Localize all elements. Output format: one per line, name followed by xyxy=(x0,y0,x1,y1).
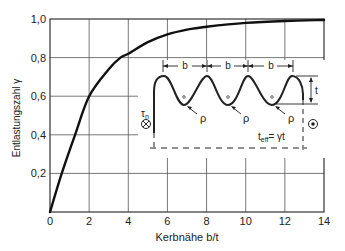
y-axis-tick-labels: 0,20,40,60,81,0 xyxy=(31,13,46,179)
x-tick-label: 12 xyxy=(279,215,291,227)
y-axis-label: Entlastungszahl γ xyxy=(11,79,22,157)
chart: 02468101214 0,20,40,60,81,0 Kerbnähe b/t… xyxy=(0,0,345,251)
x-axis-tick-labels: 02468101214 xyxy=(47,215,330,227)
x-axis-label: Kerbnähe b/t xyxy=(156,231,219,243)
y-tick-label: 0,6 xyxy=(31,90,46,102)
label-t: t xyxy=(315,85,318,96)
label-b-3: b xyxy=(268,60,274,71)
x-tick-label: 4 xyxy=(125,215,131,227)
x-tick-label: 2 xyxy=(86,215,92,227)
label-rho-2: ρ xyxy=(243,112,249,124)
x-tick-label: 10 xyxy=(240,215,252,227)
x-tick-label: 6 xyxy=(164,215,170,227)
label-b-2: b xyxy=(225,60,231,71)
label-rho-3: ρ xyxy=(288,112,294,124)
y-tick-label: 1,0 xyxy=(31,13,46,25)
x-tick-label: 0 xyxy=(47,215,53,227)
inset-background xyxy=(138,60,328,158)
label-rho-1: ρ xyxy=(200,112,206,124)
label-b-1: b xyxy=(182,60,188,71)
y-tick-label: 0,8 xyxy=(31,52,46,64)
x-tick-label: 8 xyxy=(204,215,210,227)
x-tick-label: 14 xyxy=(318,215,330,227)
y-tick-label: 0,4 xyxy=(31,129,46,141)
y-tick-label: 0,2 xyxy=(31,167,46,179)
